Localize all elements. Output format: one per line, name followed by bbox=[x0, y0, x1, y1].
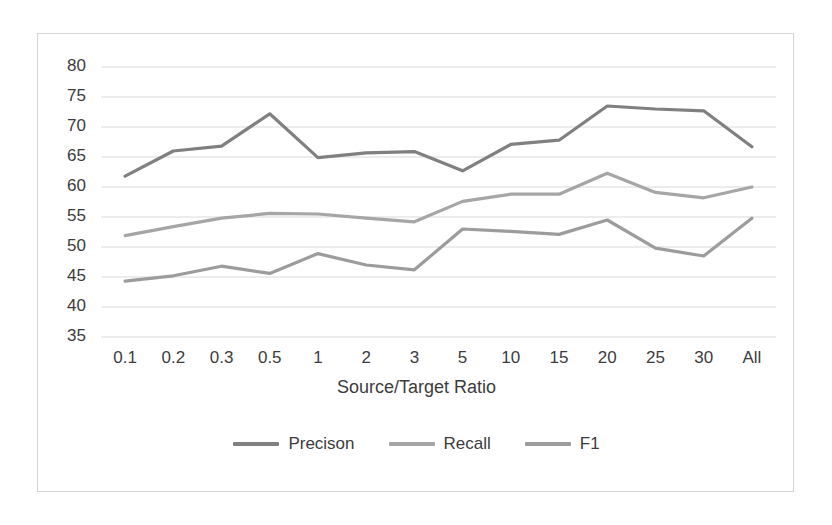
x-axis-tick-label: All bbox=[722, 348, 782, 368]
y-axis-tick-label: 40 bbox=[46, 296, 86, 316]
series-lines bbox=[125, 106, 752, 281]
series-line bbox=[125, 173, 752, 235]
legend-label: Precison bbox=[288, 434, 354, 454]
plot-area: 80757065605550454035 0.10.20.30.51235101… bbox=[38, 34, 795, 493]
line-chart-svg bbox=[38, 34, 795, 493]
legend-item[interactable]: F1 bbox=[525, 434, 600, 454]
legend-line-swatch bbox=[233, 442, 279, 446]
y-axis-tick-label: 70 bbox=[46, 116, 86, 136]
y-axis-tick-label: 75 bbox=[46, 86, 86, 106]
legend-item[interactable]: Precison bbox=[233, 434, 354, 454]
gridlines bbox=[101, 67, 776, 337]
chart-legend: PrecisonRecallF1 bbox=[38, 434, 795, 454]
legend-line-swatch bbox=[525, 442, 571, 446]
y-axis-tick-label: 80 bbox=[46, 56, 86, 76]
y-axis-tick-label: 55 bbox=[46, 206, 86, 226]
y-axis-tick-label: 50 bbox=[46, 236, 86, 256]
series-line bbox=[125, 218, 752, 281]
legend-item[interactable]: Recall bbox=[389, 434, 491, 454]
x-axis-title: Source/Target Ratio bbox=[38, 377, 795, 398]
legend-label: Recall bbox=[444, 434, 491, 454]
y-axis-tick-label: 60 bbox=[46, 176, 86, 196]
series-line bbox=[125, 106, 752, 176]
chart-container: 80757065605550454035 0.10.20.30.51235101… bbox=[37, 33, 794, 492]
legend-line-swatch bbox=[389, 442, 435, 446]
y-axis-tick-label: 35 bbox=[46, 326, 86, 346]
y-axis-tick-label: 45 bbox=[46, 266, 86, 286]
legend-label: F1 bbox=[580, 434, 600, 454]
y-axis-tick-label: 65 bbox=[46, 146, 86, 166]
